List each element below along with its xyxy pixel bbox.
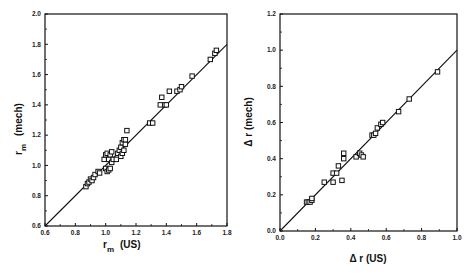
plot-frame [280,14,457,231]
y-tick-label: 1.4 [32,101,41,108]
data-point [334,171,338,175]
y-tick-label: 2.0 [32,10,41,17]
y-tick-label: 1.2 [32,131,41,138]
y-tick-label: 0.8 [267,83,276,90]
x-tick-label: 0.6 [382,234,391,241]
data-point [214,48,218,52]
data-point [407,97,411,101]
data-point [114,157,118,161]
x-tick-label: 0.6 [40,229,49,236]
data-point [125,128,129,132]
y-tick-label: 0.4 [267,155,276,162]
data-point [336,164,340,168]
data-point [331,180,335,184]
y-tick-label: 0.2 [267,191,276,198]
x-tick-label: 0.8 [71,229,80,236]
x-tick-label: 0.8 [417,234,426,241]
x-tick-label: 0.4 [346,234,355,241]
y-axis-label: rm(mech) [13,103,28,155]
data-point [160,95,164,99]
data-point [97,171,101,175]
data-point [396,109,400,113]
data-point [322,180,326,184]
y-tick-label: 1.2 [267,10,276,17]
figure: 0.60.81.01.21.41.61.80.60.81.01.21.41.61… [0,0,476,276]
data-point [158,103,162,107]
y-tick-label: 0.8 [32,192,41,199]
data-point [342,151,346,155]
data-point [380,120,384,124]
data-point [435,70,439,74]
data-point [122,148,126,152]
x-tick-label: 1.6 [192,229,201,236]
y-tick-label: 1.0 [32,162,41,169]
data-point [164,103,168,107]
data-point [340,178,344,182]
x-axis-label: Δ r (US) [349,253,386,264]
chart-delta-r-scatter: 0.00.20.40.60.81.00.00.20.40.60.81.01.2Δ… [243,10,462,264]
data-point [179,84,183,88]
data-point [361,155,365,159]
identity-line [45,44,227,226]
data-point [373,131,377,135]
data-point [150,121,154,125]
y-tick-label: 1.8 [32,41,41,48]
x-tick-label: 0.0 [275,234,284,241]
y-tick-label: 1.0 [267,46,276,53]
y-tick-label: 0.6 [267,119,276,126]
data-point [167,89,171,93]
y-axis-label: Δ r (mech) [243,97,254,146]
data-point [110,150,114,154]
data-point [102,157,106,161]
x-tick-label: 1.0 [101,229,110,236]
x-tick-label: 1.4 [162,229,171,236]
x-tick-label: 1.8 [222,229,231,236]
data-point [310,196,314,200]
x-tick-label: 1.0 [452,234,461,241]
data-point [342,156,346,160]
y-tick-label: 1.6 [32,71,41,78]
y-tick-label: 0.0 [267,227,276,234]
data-point [123,137,127,141]
x-tick-label: 0.2 [311,234,320,241]
x-tick-label: 1.2 [131,229,140,236]
data-point [190,74,194,78]
data-point [123,142,127,146]
x-axis-label: rm(US) [103,239,141,254]
y-tick-label: 0.6 [32,222,41,229]
data-point [108,166,112,170]
data-point [208,57,212,61]
plot-frame [45,14,227,226]
chart-rm-scatter: 0.60.81.01.21.41.61.80.60.81.01.21.41.61… [13,10,232,254]
